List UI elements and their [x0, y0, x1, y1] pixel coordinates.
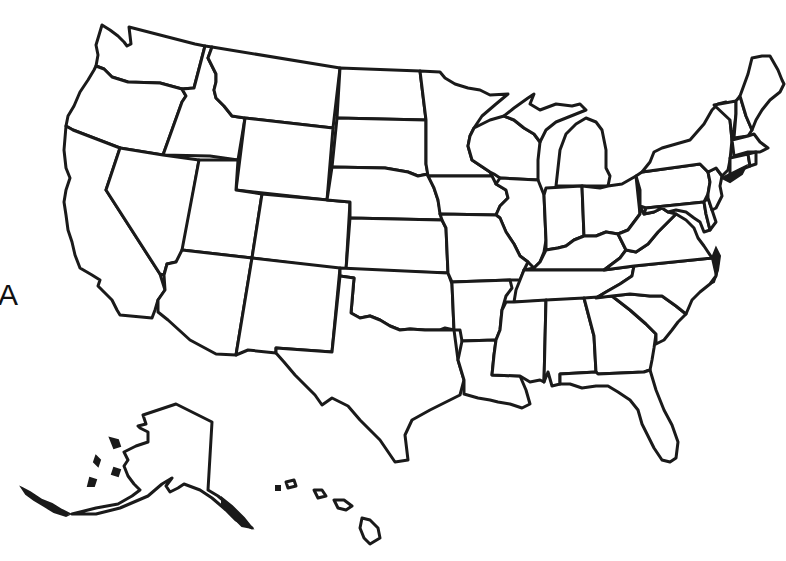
alaska-island-3	[112, 468, 120, 476]
state-rhode-island[interactable]	[748, 152, 756, 166]
state-kansas[interactable]	[346, 218, 448, 273]
alaska-panhandle-islands	[222, 498, 252, 528]
state-maine[interactable]	[740, 56, 784, 130]
hawaii-kauai[interactable]	[286, 480, 296, 488]
us-outline-map: A	[0, 0, 786, 561]
state-new-york[interactable]	[642, 102, 732, 176]
hawaii-niihau	[276, 486, 280, 490]
hawaii-maui[interactable]	[334, 500, 352, 510]
map-canvas	[0, 0, 786, 561]
alaska-island-2	[94, 456, 100, 466]
state-north-dakota[interactable]	[337, 68, 426, 120]
alaska-island-1	[110, 438, 120, 448]
aleutian-islands	[22, 488, 70, 516]
hawaii-big-island[interactable]	[360, 518, 380, 544]
state-florida[interactable]	[560, 370, 678, 462]
state-michigan[interactable]	[556, 118, 610, 186]
alaska-island-4	[88, 478, 96, 486]
hawaii-oahu[interactable]	[314, 490, 326, 498]
state-new-mexico[interactable]	[236, 258, 340, 355]
state-wyoming[interactable]	[236, 118, 333, 200]
